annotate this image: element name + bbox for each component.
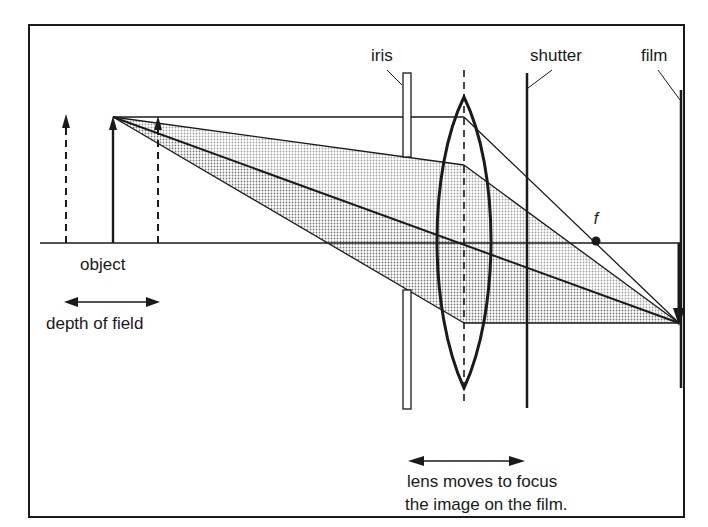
iris-leader	[387, 70, 402, 85]
lens-caption-line1: lens moves to focus	[407, 472, 557, 491]
lens-diagram: f iris shutter film object depth of fiel…	[0, 0, 708, 527]
arrowhead-icon	[509, 456, 525, 466]
arrowhead-icon	[408, 456, 424, 466]
shutter-label: shutter	[530, 46, 582, 65]
arrowhead-icon	[62, 114, 70, 128]
focal-point-label: f	[594, 210, 600, 227]
lens-caption-line2: the image on the film.	[405, 495, 568, 514]
object-label: object	[80, 255, 126, 274]
iris-plate-top	[403, 73, 411, 157]
depth-of-field-label: depth of field	[46, 314, 143, 333]
shutter-leader	[528, 70, 552, 88]
focal-point	[592, 237, 601, 246]
film-leader	[658, 70, 680, 100]
iris-plate-bottom	[403, 290, 411, 409]
arrowhead-icon	[64, 297, 78, 307]
film-label: film	[641, 46, 667, 65]
iris-label: iris	[371, 46, 393, 65]
arrowhead-icon	[146, 297, 160, 307]
